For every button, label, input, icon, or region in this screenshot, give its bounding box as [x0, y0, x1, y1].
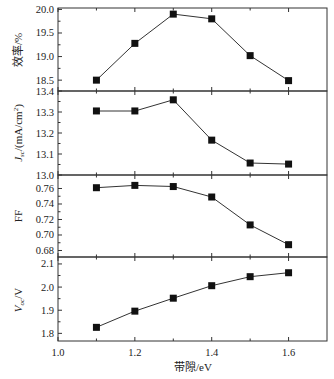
- data-point-marker: [285, 269, 292, 276]
- y-tick-label: 1.8: [41, 328, 54, 339]
- y-axis-title-voc: Voc/V: [12, 288, 26, 312]
- y-tick-label: 0.72: [36, 214, 54, 225]
- chart-panels: 18.519.019.520.013.013.113.213.313.40.68…: [36, 4, 327, 341]
- data-point-marker: [170, 295, 177, 302]
- data-point-marker: [208, 15, 215, 22]
- y-tick-label: 20.0: [36, 4, 54, 15]
- panel-ff: 0.680.700.720.740.76: [36, 175, 327, 257]
- data-point-marker: [131, 40, 138, 47]
- data-point-marker: [285, 77, 292, 84]
- data-point-marker: [208, 282, 215, 289]
- data-point-marker: [285, 161, 292, 168]
- y-tick-label: 18.5: [36, 75, 54, 86]
- x-tick-label: 1.0: [51, 347, 64, 358]
- series-line-ff: [96, 185, 288, 244]
- data-point-marker: [208, 137, 215, 144]
- stacked-line-chart: 18.519.019.520.013.013.113.213.313.40.68…: [0, 0, 334, 379]
- x-tick-label: 1.2: [128, 347, 141, 358]
- data-point-marker: [170, 96, 177, 103]
- y-axis-title-ff: FF: [12, 210, 24, 222]
- y-tick-label: 2.1: [41, 258, 54, 269]
- y-tick-label: 0.68: [36, 245, 54, 256]
- data-point-marker: [93, 324, 100, 331]
- y-tick-label: 0.70: [36, 229, 54, 240]
- panel-voc: 1.81.92.02.1: [41, 257, 327, 341]
- data-point-marker: [285, 241, 292, 248]
- panel-jsc: 13.013.113.213.313.4: [36, 86, 327, 181]
- y-tick-label: 19.0: [36, 51, 54, 62]
- panel-efficiency: 18.519.019.520.0: [36, 4, 327, 91]
- series-line-voc: [96, 273, 288, 328]
- x-tick-label: 1.6: [282, 347, 295, 358]
- x-axis-title: 带隙/eV: [174, 360, 212, 373]
- data-point-marker: [247, 221, 254, 228]
- data-point-marker: [170, 183, 177, 190]
- y-tick-label: 0.76: [36, 183, 54, 194]
- x-axis: 1.01.21.41.6: [51, 347, 295, 358]
- y-tick-label: 13.2: [36, 128, 54, 139]
- data-point-marker: [208, 194, 215, 201]
- data-point-marker: [247, 52, 254, 59]
- data-point-marker: [131, 182, 138, 189]
- y-tick-label: 19.5: [36, 27, 54, 38]
- data-point-marker: [170, 11, 177, 18]
- data-point-marker: [247, 273, 254, 280]
- y-axis-title-efficiency: 效率/%: [11, 33, 24, 67]
- data-point-marker: [93, 107, 100, 114]
- data-point-marker: [131, 107, 138, 114]
- data-point-marker: [131, 308, 138, 315]
- series-line-jsc: [96, 100, 288, 164]
- y-tick-label: 2.0: [41, 282, 54, 293]
- y-tick-label: 13.1: [36, 149, 54, 160]
- y-tick-label: 13.0: [36, 170, 54, 181]
- y-tick-label: 13.4: [36, 86, 55, 97]
- y-tick-label: 0.74: [36, 198, 55, 209]
- y-tick-label: 13.3: [36, 107, 54, 118]
- y-axis-title-jsc: Jsc/(mA/cm2): [12, 104, 26, 162]
- series-line-efficiency: [96, 14, 288, 81]
- data-point-marker: [247, 160, 254, 167]
- y-tick-label: 1.9: [41, 305, 54, 316]
- data-point-marker: [93, 77, 100, 84]
- x-tick-label: 1.4: [205, 347, 219, 358]
- data-point-marker: [93, 184, 100, 191]
